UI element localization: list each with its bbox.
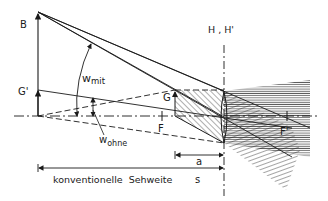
label-w-ohne: wohne — [99, 134, 127, 148]
label-w-mit-main: w — [82, 72, 91, 85]
label-F: F — [158, 123, 164, 134]
label-G-prime: G' — [18, 86, 29, 97]
label-w-mit: wmit — [82, 72, 106, 86]
optical-diagram: B G' G H , H' F F' wmit wohne a konventi… — [0, 0, 328, 201]
label-F-prime: F' — [280, 126, 289, 137]
label-a: a — [196, 156, 202, 167]
w-ohne-leader — [93, 110, 104, 135]
label-w-ohne-main: w — [99, 134, 107, 145]
label-G: G — [163, 92, 171, 103]
label-w-mit-sub: mit — [91, 76, 106, 86]
label-w-ohne-sub: ohne — [107, 139, 127, 148]
label-s: s — [195, 174, 200, 185]
label-B: B — [20, 19, 27, 30]
label-H-H-prime: H , H' — [208, 24, 234, 35]
caption-conventional-viewing-distance: konventionelle Sehweite — [53, 174, 173, 185]
